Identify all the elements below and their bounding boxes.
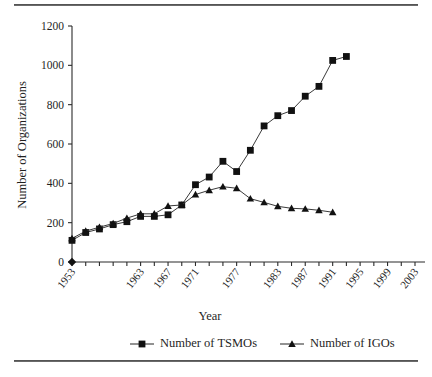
x-tick-label: 1963 (123, 265, 146, 290)
x-tick-label: 1991 (315, 266, 338, 291)
x-axis-tick-labels: 1953196319671971197719831987199119951999… (55, 265, 421, 290)
x-tick-label: 2003 (398, 265, 421, 290)
data-point-marker-triangle (219, 183, 227, 190)
legend-label: Number of TSMOs (160, 336, 257, 350)
caption-fragment (120, 368, 330, 377)
axis-tick-marks (68, 26, 415, 266)
legend-label: Number of IGOs (310, 336, 395, 350)
axis-lines (72, 26, 425, 262)
data-point-marker-square (192, 181, 199, 188)
x-tick-label: 1953 (55, 265, 78, 290)
y-tick-label: 0 (58, 256, 64, 268)
data-point-marker-square (139, 341, 146, 348)
y-tick-label: 200 (47, 217, 65, 229)
series-igos (68, 183, 336, 241)
line-chart-plot: 020040060080010001200 195319631967197119… (0, 0, 432, 377)
y-axis-title: Number of Organizations (15, 81, 29, 209)
x-tick-label: 1967 (151, 265, 174, 290)
series-igos-line (72, 187, 333, 239)
data-point-marker-square (220, 158, 227, 165)
series-tsmos-line (72, 56, 346, 240)
y-tick-label: 800 (47, 99, 65, 111)
data-point-marker-diamond (68, 258, 76, 266)
y-axis-tick-labels: 020040060080010001200 (41, 20, 64, 268)
data-point-marker-square (316, 83, 323, 90)
data-series-group (68, 53, 350, 266)
legend-item-igos[interactable]: Number of IGOs (280, 336, 395, 350)
x-tick-label: 1995 (343, 265, 366, 290)
chart-legend: Number of TSMOsNumber of IGOs (130, 336, 395, 350)
x-tick-label: 1987 (288, 265, 311, 290)
data-point-marker-square (233, 168, 240, 175)
x-tick-label: 1971 (178, 266, 201, 291)
y-tick-label: 1000 (41, 59, 64, 71)
series-tsmos (69, 53, 350, 244)
data-point-marker-square (329, 57, 336, 64)
x-axis-title: Year (198, 309, 222, 323)
data-point-marker-square (288, 107, 295, 114)
data-point-marker-triangle (247, 195, 255, 202)
data-point-marker-square (302, 93, 309, 100)
data-point-marker-square (247, 147, 254, 154)
y-tick-label: 400 (47, 177, 65, 189)
chart-figure: 020040060080010001200 195319631967197119… (0, 0, 432, 377)
x-tick-label: 1999 (370, 265, 393, 290)
data-point-marker-square (165, 211, 172, 218)
legend-item-tsmos[interactable]: Number of TSMOs (130, 336, 257, 350)
data-point-marker-square (343, 53, 350, 60)
x-tick-label: 1983 (260, 265, 283, 290)
x-tick-label: 1977 (219, 265, 242, 290)
y-tick-label: 600 (47, 138, 65, 150)
data-point-marker-square (274, 112, 281, 119)
data-point-marker-square (261, 123, 268, 130)
y-tick-label: 1200 (41, 20, 64, 32)
data-point-marker-square (206, 174, 213, 181)
